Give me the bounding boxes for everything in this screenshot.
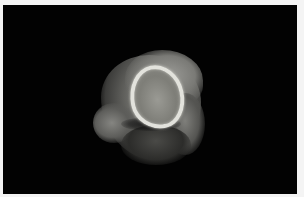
photo-frame [3,5,297,194]
specimen-lower-lobe [121,125,191,165]
